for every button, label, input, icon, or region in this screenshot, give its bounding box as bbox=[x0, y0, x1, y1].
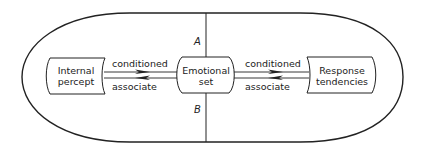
node-emotional-set: Emotional set bbox=[178, 65, 234, 87]
node-label-line1: Emotional bbox=[178, 65, 234, 76]
node-response-tendencies: Response tendencies bbox=[311, 65, 373, 87]
node-label-line2: percept bbox=[50, 76, 102, 87]
node-label-line1: Response bbox=[311, 65, 373, 76]
node-label-line2: set bbox=[178, 76, 234, 87]
region-label-b: B bbox=[194, 104, 201, 115]
edge-label-conditioned-right: conditioned bbox=[245, 58, 301, 69]
region-label-a: A bbox=[194, 36, 201, 47]
edge-label-associate-right: associate bbox=[245, 81, 290, 92]
edge-label-associate-left: associate bbox=[112, 81, 157, 92]
edge-label-conditioned-left: conditioned bbox=[112, 58, 168, 69]
node-internal-percept: Internal percept bbox=[50, 65, 102, 87]
node-label-line2: tendencies bbox=[311, 76, 373, 87]
node-label-line1: Internal bbox=[50, 65, 102, 76]
